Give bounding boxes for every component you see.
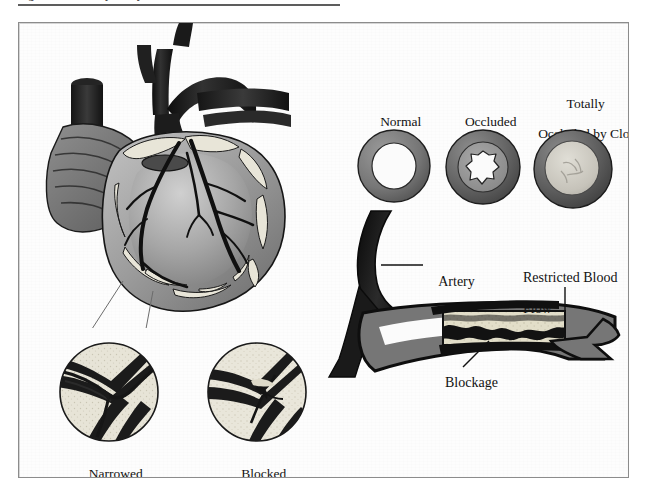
label-artery: Artery <box>425 258 475 305</box>
inset-narrowed-coronary-artery <box>55 341 163 447</box>
caption-rule <box>18 4 340 6</box>
top-caption-strip: Figure 1. Coronary artery disease. <box>0 0 645 16</box>
cross-section-normal <box>355 127 433 205</box>
heart-illustration <box>27 23 327 328</box>
figure-panel: Narrowed Coronary Artery B <box>18 22 629 478</box>
cross-section-occluded <box>443 127 523 207</box>
label-restricted-blood-flow-line2: Flow <box>523 301 552 316</box>
label-blockage-text: Blockage <box>445 375 498 390</box>
label-artery-text: Artery <box>438 274 475 289</box>
label-restricted-blood-flow-line1: Restricted Blood <box>523 270 618 285</box>
inset-narrowed-label-line1: Narrowed <box>89 466 143 478</box>
inset-blocked-coronary-artery <box>203 341 311 447</box>
inset-narrowed-label: Narrowed Coronary Artery <box>41 451 177 478</box>
label-blockage: Blockage <box>431 359 498 406</box>
inset-blocked-label-line1: Blocked <box>241 466 286 478</box>
cross-section-totally-occluded <box>531 127 615 211</box>
figure-caption-text: Figure 1. Coronary artery disease. <box>18 0 185 2</box>
label-restricted-blood-flow: Restricted Blood Flow <box>509 254 618 332</box>
cross-section-clot-label-line1: Totally <box>567 96 605 111</box>
inset-blocked-label: Blocked Coronary Artery <box>189 451 325 478</box>
